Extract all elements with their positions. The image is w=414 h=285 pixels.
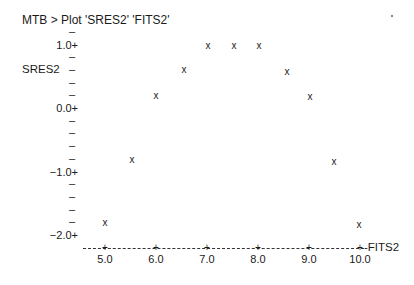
y-minor-tick: – bbox=[69, 215, 75, 227]
y-minor-tick: – bbox=[69, 177, 75, 189]
data-point: x bbox=[254, 41, 264, 51]
data-point: x bbox=[229, 41, 239, 51]
y-tick-label: −1.0+ bbox=[28, 166, 78, 178]
x-tick-label: 9.0 bbox=[289, 253, 329, 265]
x-axis-label: -FITS2 bbox=[364, 241, 399, 253]
y-minor-tick: – bbox=[69, 126, 75, 138]
data-point: x bbox=[305, 92, 315, 102]
x-tick-label: 7.0 bbox=[187, 253, 227, 265]
data-point: x bbox=[354, 220, 364, 230]
data-point: x bbox=[179, 65, 189, 75]
x-tick-mark: + bbox=[151, 243, 161, 253]
y-minor-tick: – bbox=[69, 203, 75, 215]
y-minor-tick: – bbox=[69, 63, 75, 75]
data-point: x bbox=[329, 157, 339, 167]
y-minor-tick: – bbox=[69, 88, 75, 100]
x-tick-label: 8.0 bbox=[238, 253, 278, 265]
y-tick-label: 1.0+ bbox=[28, 39, 78, 51]
y-minor-tick: – bbox=[69, 25, 75, 37]
x-tick-mark: + bbox=[253, 243, 263, 253]
data-point: x bbox=[203, 41, 213, 51]
data-point: x bbox=[151, 91, 161, 101]
x-tick-label: 10.0 bbox=[340, 253, 380, 265]
y-minor-tick: – bbox=[69, 50, 75, 62]
data-point: x bbox=[282, 67, 292, 77]
y-minor-tick: – bbox=[69, 139, 75, 151]
x-tick-mark: + bbox=[202, 243, 212, 253]
y-minor-tick: – bbox=[69, 152, 75, 164]
data-point: x bbox=[127, 155, 137, 165]
x-tick-label: 5.0 bbox=[85, 253, 125, 265]
y-tick-label: −2.0+ bbox=[28, 229, 78, 241]
y-minor-tick: – bbox=[69, 114, 75, 126]
x-axis-line bbox=[83, 248, 364, 249]
x-tick-mark: + bbox=[304, 243, 314, 253]
data-point: x bbox=[100, 218, 110, 228]
y-minor-tick: – bbox=[69, 76, 75, 88]
x-tick-label: 6.0 bbox=[136, 253, 176, 265]
y-axis-label: SRES2 bbox=[22, 63, 60, 75]
scan-speck bbox=[391, 15, 393, 17]
y-tick-label: 0.0+ bbox=[28, 102, 78, 114]
x-tick-mark: + bbox=[100, 243, 110, 253]
chart-title: MTB > Plot 'SRES2' 'FITS2' bbox=[22, 13, 170, 27]
y-minor-tick: – bbox=[69, 190, 75, 202]
